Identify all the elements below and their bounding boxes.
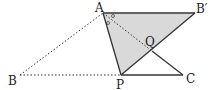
label-b-prime: B′	[196, 2, 208, 16]
geometry-figure: A B′ B P C Q	[0, 0, 213, 90]
label-c: C	[186, 72, 195, 86]
label-p: P	[116, 78, 124, 90]
segment-qc	[152, 51, 183, 75]
label-b: B	[8, 74, 17, 88]
label-q: Q	[145, 35, 155, 49]
label-a: A	[94, 1, 104, 15]
segment-ba-dotted	[20, 13, 103, 75]
